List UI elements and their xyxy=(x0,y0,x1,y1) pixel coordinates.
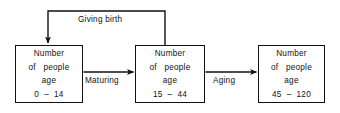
cohort-adult-age-range: 15 – 44 xyxy=(153,88,187,102)
cohort-young-line-2: of people xyxy=(29,61,70,75)
cohort-adult-line-2: of people xyxy=(150,61,191,75)
cohort-box-young: Number of people age 0 – 14 xyxy=(15,45,83,103)
cohort-senior-line-2: of people xyxy=(271,61,312,75)
population-flow-diagram: Number of people age 0 – 14 Number of pe… xyxy=(0,0,340,113)
maturing-label: Maturing xyxy=(85,76,119,86)
cohort-young-age-range: 0 – 14 xyxy=(34,88,63,102)
cohort-box-senior: Number of people age 45 – 120 xyxy=(258,45,325,103)
cohort-senior-line-3: age xyxy=(284,74,298,88)
cohort-senior-line-1: Number xyxy=(276,47,307,61)
cohort-young-line-1: Number xyxy=(34,47,65,61)
giving-birth-label: Giving birth xyxy=(78,15,122,25)
cohort-young-line-3: age xyxy=(42,74,56,88)
cohort-box-adult: Number of people age 15 – 44 xyxy=(135,45,205,103)
cohort-adult-line-3: age xyxy=(163,74,177,88)
cohort-adult-line-1: Number xyxy=(155,47,186,61)
cohort-senior-age-range: 45 – 120 xyxy=(272,88,311,102)
aging-label: Aging xyxy=(213,76,235,86)
